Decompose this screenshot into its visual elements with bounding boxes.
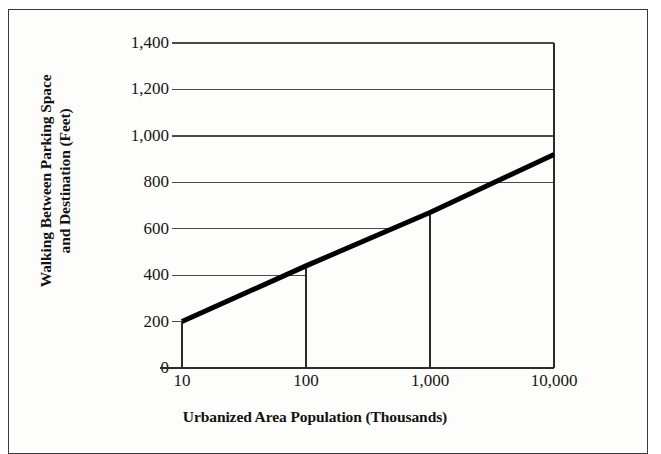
x-tick-label-10: 10 bbox=[137, 372, 227, 389]
chart-figure: Walking Between Parking Space and Destin… bbox=[8, 9, 648, 454]
chart-inner: Walking Between Parking Space and Destin… bbox=[9, 10, 647, 453]
x-tick-label-1000: 1,000 bbox=[385, 372, 475, 389]
x-axis-title: Urbanized Area Population (Thousands) bbox=[9, 408, 621, 426]
data-series-group bbox=[182, 154, 554, 321]
x-tick-label-100: 100 bbox=[261, 372, 351, 389]
x-axis-tick-labels: 101001,00010,000 bbox=[9, 372, 647, 398]
axis-lines-group bbox=[160, 43, 554, 368]
plot-area bbox=[9, 10, 648, 410]
x-tick-label-10000: 10,000 bbox=[509, 372, 599, 389]
x-axis-ticks-group bbox=[182, 212, 430, 368]
data-series-line bbox=[182, 154, 554, 321]
